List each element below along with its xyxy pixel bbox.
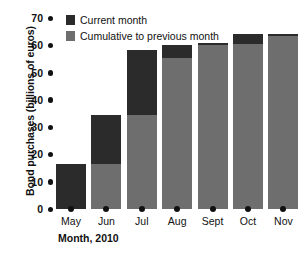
y-axis-tick: 70 xyxy=(0,12,53,24)
bar-may xyxy=(56,164,86,209)
x-axis-tick-dot xyxy=(139,206,145,212)
x-axis-label-nov: Nov xyxy=(260,215,306,227)
legend-item: Current month xyxy=(66,13,219,27)
y-axis-tick-dot xyxy=(48,70,54,76)
x-axis-tick-dot xyxy=(245,206,251,212)
x-axis-tick-dot xyxy=(68,206,74,212)
y-axis-tick-label: 0 xyxy=(37,203,43,215)
bar-jun xyxy=(91,115,121,209)
y-axis-tick: 0 xyxy=(0,203,53,215)
bar-nov xyxy=(268,34,298,209)
bar-jul xyxy=(127,50,157,209)
bar-segment-current xyxy=(268,34,298,35)
legend-swatch-icon xyxy=(66,31,75,41)
bar-sept xyxy=(198,43,228,209)
bar-segment-current xyxy=(162,45,192,57)
legend-swatch-icon xyxy=(66,15,75,25)
y-axis-tick: 60 xyxy=(0,39,53,51)
bar-aug xyxy=(162,45,192,209)
y-axis-tick-dot xyxy=(48,152,54,158)
bar-segment-cumulative xyxy=(127,115,157,209)
bar-segment-cumulative xyxy=(268,36,298,209)
bar-segment-current xyxy=(91,115,121,164)
x-axis-tick-dot xyxy=(280,206,286,212)
y-axis-tick-label: 70 xyxy=(31,12,43,24)
bar-oct xyxy=(233,34,263,209)
legend-label: Current month xyxy=(80,14,147,26)
y-axis-tick: 30 xyxy=(0,121,53,133)
chart-legend: Current monthCumulative to previous mont… xyxy=(66,13,219,45)
y-axis-tick-label: 10 xyxy=(31,176,43,188)
y-axis-tick-label: 40 xyxy=(31,94,43,106)
bar-segment-current xyxy=(127,50,157,115)
bar-segment-cumulative xyxy=(162,58,192,209)
y-axis-tick-dot xyxy=(48,97,54,103)
x-axis-tick-dot xyxy=(103,206,109,212)
bond-purchases-chart: Bond purchases (billions of euros) 01020… xyxy=(0,0,307,253)
legend-item: Cumulative to previous month xyxy=(66,29,219,43)
y-axis-tick: 40 xyxy=(0,94,53,106)
x-axis-title: Month, 2010 xyxy=(58,232,119,244)
y-axis-tick-dot xyxy=(48,125,54,131)
bar-segment-current xyxy=(56,164,86,209)
bar-segment-current xyxy=(233,34,263,44)
y-axis-tick: 20 xyxy=(0,148,53,160)
y-axis-tick-label: 60 xyxy=(31,39,43,51)
y-axis-tick: 50 xyxy=(0,67,53,79)
legend-label: Cumulative to previous month xyxy=(80,30,219,42)
bar-segment-cumulative xyxy=(233,44,263,209)
x-axis-tick-dot xyxy=(174,206,180,212)
bar-segment-cumulative xyxy=(91,164,121,209)
y-axis-tick-label: 50 xyxy=(31,67,43,79)
bar-segment-cumulative xyxy=(198,45,228,209)
y-axis-tick-label: 30 xyxy=(31,121,43,133)
x-axis-tick-dot xyxy=(210,206,216,212)
y-axis-tick-dot xyxy=(48,43,54,49)
y-axis-tick-dot xyxy=(48,207,54,213)
y-axis-tick-dot xyxy=(48,179,54,185)
y-axis-tick: 10 xyxy=(0,176,53,188)
y-axis-tick-dot xyxy=(48,16,54,22)
y-axis-tick-label: 20 xyxy=(31,148,43,160)
